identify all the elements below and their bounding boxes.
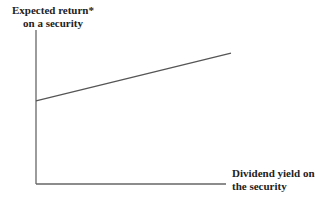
y-axis-label-line2: on a security [0,17,106,30]
series-line [36,53,231,101]
y-axis-label: Expected return* on a security [0,4,106,30]
x-axis-label: Dividend yield on the security [232,167,315,193]
y-axis-label-line1: Expected return* [0,4,106,17]
x-axis-label-line1: Dividend yield on [232,167,315,180]
x-axis-label-line2: the security [232,180,315,193]
